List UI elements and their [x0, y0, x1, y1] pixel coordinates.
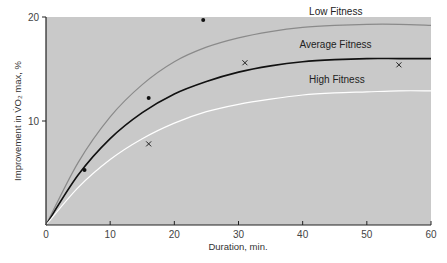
vo2-improvement-chart: 0102030405060 1020 Low FitnessAverage Fi… [0, 0, 447, 263]
dot-marker [147, 96, 151, 100]
x-axis-label: Duration, min. [208, 241, 267, 252]
x-tick-label: 0 [43, 229, 49, 240]
curve-label: Average Fitness [299, 39, 371, 50]
y-tick-label: 20 [28, 12, 40, 23]
y-tick-label: 10 [28, 116, 40, 127]
x-tick-label: 60 [425, 229, 437, 240]
dot-marker [201, 18, 205, 22]
plot-background [46, 17, 431, 225]
curve-label: Low Fitness [309, 6, 362, 17]
x-tick-label: 10 [105, 229, 117, 240]
x-tick-label: 50 [361, 229, 373, 240]
x-tick-label: 30 [233, 229, 245, 240]
x-tick-label: 20 [169, 229, 181, 240]
curve-label: High Fitness [309, 74, 365, 85]
y-axis-label: Improvement in V̇O₂ max, % [12, 61, 23, 181]
y-axis-ticks: 1020 [28, 12, 46, 127]
dot-marker [83, 168, 87, 172]
x-tick-label: 40 [297, 229, 309, 240]
